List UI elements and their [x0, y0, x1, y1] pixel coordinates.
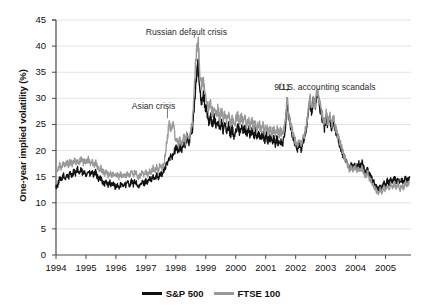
chart-annotation-label: Russian default crisis — [146, 27, 227, 37]
y-tick-label: 45 — [24, 15, 46, 25]
grid-lines — [56, 20, 411, 229]
chart-legend: S&P 500FTSE 100 — [0, 288, 422, 299]
y-tick-label: 10 — [24, 198, 46, 208]
y-tick-label: 20 — [24, 146, 46, 156]
volatility-chart: One-year implied volatility (%) 05101520… — [0, 0, 422, 308]
y-tick-label: 15 — [24, 172, 46, 182]
legend-swatch — [214, 292, 234, 295]
y-tick-label: 40 — [24, 41, 46, 51]
y-tick-label: 30 — [24, 93, 46, 103]
legend-label: FTSE 100 — [238, 288, 281, 299]
y-tick-label: 35 — [24, 67, 46, 77]
chart-annotation-label: Asian crisis — [132, 101, 175, 111]
x-tick-label: 2005 — [366, 263, 406, 273]
legend-item: FTSE 100 — [214, 288, 281, 299]
legend-swatch — [142, 292, 162, 295]
axis-lines — [52, 20, 411, 255]
legend-label: S&P 500 — [166, 288, 204, 299]
chart-annotation-label: U.S. accounting scandals — [279, 82, 376, 92]
data-series-layer — [56, 37, 410, 194]
y-tick-label: 0 — [24, 250, 46, 260]
y-tick-label: 5 — [24, 224, 46, 234]
legend-item: S&P 500 — [142, 288, 204, 299]
axis-ticks — [52, 20, 386, 259]
y-tick-label: 25 — [24, 119, 46, 129]
